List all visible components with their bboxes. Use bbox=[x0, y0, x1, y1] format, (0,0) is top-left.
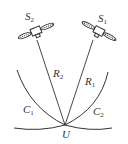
label-s1: S1 bbox=[98, 13, 107, 26]
label-c2: C2 bbox=[93, 106, 104, 119]
label-r2: R2 bbox=[53, 68, 63, 81]
satellite-s2-icon bbox=[17, 21, 56, 45]
diagram-canvas bbox=[0, 0, 128, 144]
curve-c1 bbox=[17, 70, 112, 129]
label-user: U bbox=[62, 129, 70, 140]
range-line-r2 bbox=[37, 40, 65, 125]
label-r1: R1 bbox=[85, 76, 95, 89]
label-s2: S2 bbox=[25, 11, 34, 24]
label-c1: C1 bbox=[23, 104, 34, 117]
